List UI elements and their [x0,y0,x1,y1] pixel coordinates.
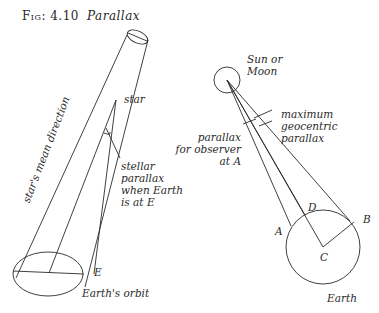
label-maximum-geocentric-parallax: maximum geocentric parallax [281,108,338,144]
radius-cb [323,222,354,247]
geocentric-parallax-diagram [214,67,360,284]
figure-number: Fig: 4.10 [22,9,79,23]
orbit-diameter [13,271,84,274]
earths-orbit-ellipse [13,252,83,296]
figure-title: Parallax [87,9,140,23]
label-star: star [124,93,145,105]
label-sun-or-moon: Sun or Moon [247,53,282,77]
parallax-pointer [106,128,120,158]
label-point-a: A [275,225,283,237]
label-point-d: D [308,201,316,213]
label-earths-orbit: Earth's orbit [82,287,149,299]
label-point-c: C [320,251,328,263]
max-parallax-tick-1 [259,121,272,126]
label-stellar-parallax: stellar parallax when Earth is at E [121,160,183,208]
label-earth: Earth [327,292,357,304]
star-to-e-line [94,100,116,274]
line-to-b [227,80,350,221]
label-point-b: B [363,213,371,225]
figure-caption: Fig: 4.10Parallax [22,9,140,23]
label-observer-parallax: parallax for observer at A [173,131,241,167]
figure-canvas: Fig: 4.10Parallax star stellar parallax … [0,0,379,313]
cone-line-left [16,35,127,278]
label-point-e: E [94,266,102,278]
